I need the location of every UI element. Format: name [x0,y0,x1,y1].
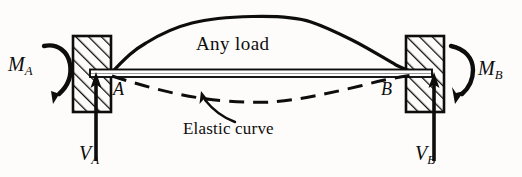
moment-a-subscript: A [25,64,33,78]
moment-b-symbol: M [478,57,495,79]
leader-arrow-icon [200,91,236,122]
moment-a-symbol: M [8,53,25,75]
moment-b-label: MB [478,57,503,83]
shear-b-symbol: V [415,142,427,164]
curved-moment-arrow-icon-mb [451,46,473,104]
shear-a-symbol: V [79,142,91,164]
dashed-deflection-curve-icon [112,75,412,102]
curved-moment-arrow-icon-ma [44,45,71,104]
shear-a-label: VA [79,142,99,168]
moment-b-subscript: B [495,68,503,82]
shear-a-subscript: A [91,153,99,167]
shear-b-subscript: B [427,153,435,167]
point-a-label: A [113,79,124,100]
shear-b-label: VB [415,142,435,168]
beam-icon [90,70,432,78]
moment-a-label: MA [8,53,33,79]
any-load-label: Any load [196,33,269,55]
elastic-curve-label: Elastic curve [183,119,274,139]
point-b-label: B [381,79,392,100]
